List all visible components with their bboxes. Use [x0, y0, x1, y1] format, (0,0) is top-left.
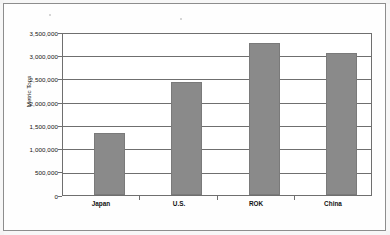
- scanned-page-background: Metric Tons 3,500,000 3,000,000 2,500,00…: [0, 0, 390, 235]
- gridline-1500000: [63, 126, 371, 127]
- x-tick-label-japan: Japan: [62, 200, 140, 207]
- gridline-2500000: [63, 79, 371, 80]
- y-tick-label-2500000: 2,500,000: [4, 76, 58, 83]
- y-tick-label-0: 0: [4, 193, 58, 200]
- y-tick-mark: [58, 196, 62, 197]
- bar-chart: Metric Tons 3,500,000 3,000,000 2,500,00…: [0, 0, 390, 235]
- y-tick-label-1000000: 1,000,000: [4, 146, 58, 153]
- bar-us[interactable]: [171, 82, 202, 195]
- y-axis-title: Metric Tons: [25, 62, 32, 122]
- bar-china[interactable]: [326, 53, 357, 195]
- bar-japan[interactable]: [94, 133, 125, 195]
- x-tick-label-us: U.S.: [140, 200, 218, 207]
- x-tick-label-rok: ROK: [217, 200, 295, 207]
- y-tick-label-1500000: 1,500,000: [4, 123, 58, 130]
- x-tick-label-china: China: [294, 200, 372, 207]
- gridline-3000000: [63, 56, 371, 57]
- y-tick-label-2000000: 2,000,000: [4, 100, 58, 107]
- y-tick-label-3500000: 3,500,000: [4, 30, 58, 37]
- bar-rok[interactable]: [249, 43, 280, 195]
- y-tick-label-3000000: 3,000,000: [4, 53, 58, 60]
- gridline-2000000: [63, 103, 371, 104]
- plot-area: [62, 33, 372, 196]
- y-tick-label-500000: 500,000: [4, 169, 58, 176]
